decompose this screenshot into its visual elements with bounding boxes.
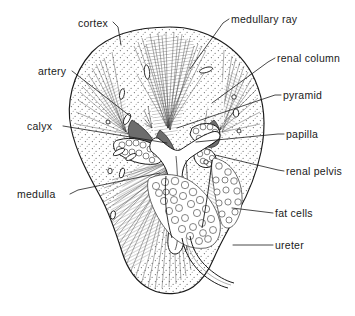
label-ureter: ureter xyxy=(275,239,304,251)
vessel-oval xyxy=(237,129,241,133)
label-medulla: medulla xyxy=(17,188,56,200)
kidney-body xyxy=(69,27,264,294)
label-medullary-ray: medullary ray xyxy=(231,13,298,25)
vessel-oval xyxy=(233,109,239,118)
vessel-oval xyxy=(108,168,112,174)
label-cortex: cortex xyxy=(78,17,109,29)
vessel-oval xyxy=(106,120,110,124)
vessel-oval xyxy=(204,160,208,164)
vessel-oval xyxy=(108,235,114,244)
kidney-diagram-svg: cortex medullary ray renal column artery… xyxy=(0,0,355,316)
label-pyramid: pyramid xyxy=(283,89,322,101)
kidney-diagram-figure: cortex medullary ray renal column artery… xyxy=(0,0,355,316)
vessel-oval xyxy=(232,95,236,99)
label-renal-column: renal column xyxy=(277,52,340,64)
label-papilla: papilla xyxy=(286,128,318,140)
label-fat-cells: fat cells xyxy=(275,207,313,219)
label-renal-pelvis: renal pelvis xyxy=(286,165,342,177)
label-calyx: calyx xyxy=(27,120,53,132)
label-artery: artery xyxy=(38,65,67,77)
